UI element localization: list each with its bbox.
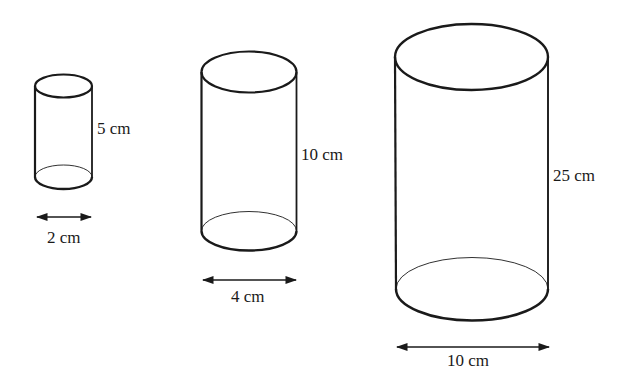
cylinder-small-bottom-back (35, 165, 92, 177)
cylinder-large (395, 24, 549, 347)
height-label-large: 25 cm (553, 167, 595, 184)
cylinders-diagram (0, 0, 631, 381)
height-label-medium: 10 cm (301, 146, 343, 163)
height-label-small: 5 cm (97, 120, 131, 137)
cylinder-large-bottom-back (396, 258, 548, 290)
diameter-label-medium: 4 cm (231, 288, 265, 305)
cylinder-large-top (395, 24, 548, 90)
cylinder-small-bottom-front (35, 177, 92, 189)
diameter-label-large: 10 cm (447, 352, 489, 369)
cylinder-medium-bottom-back (202, 212, 297, 232)
cylinder-medium-bottom-front (202, 231, 297, 251)
cylinder-small (35, 75, 92, 218)
diameter-label-small: 2 cm (47, 229, 81, 246)
cylinder-medium-top (202, 52, 297, 93)
cylinder-small-top (35, 75, 92, 98)
cylinder-medium (202, 52, 297, 281)
cylinder-large-bottom-front (396, 289, 548, 321)
cylinder-large-left-side (395, 57, 396, 289)
